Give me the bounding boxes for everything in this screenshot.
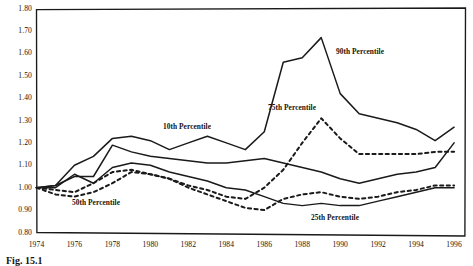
annotation-25th-percentile: 25th Percentile	[311, 213, 359, 222]
y-tick-1-80: 1.80	[2, 4, 32, 13]
x-tick-1994: 1994	[396, 240, 436, 249]
x-tick-1976: 1976	[54, 240, 94, 249]
annotation-10th-percentile: 10th Percentile	[163, 122, 211, 131]
figure-caption: Fig. 15.1	[6, 255, 42, 266]
x-tick-1992: 1992	[358, 240, 398, 249]
y-tick-1-40: 1.40	[2, 93, 32, 102]
x-tick-1986: 1986	[244, 240, 284, 249]
series-line-90th-percentile	[37, 38, 455, 188]
x-tick-1990: 1990	[320, 240, 360, 249]
line-chart-plot	[0, 0, 473, 266]
series-line-75th-percentile	[37, 118, 455, 199]
x-tick-1988: 1988	[282, 240, 322, 249]
x-tick-1982: 1982	[168, 240, 208, 249]
y-tick-1-70: 1.70	[2, 26, 32, 35]
y-tick-0-90: 0.90	[2, 205, 32, 214]
y-tick-1-10: 1.10	[2, 160, 32, 169]
x-tick-1974: 1974	[17, 240, 57, 249]
data-series-group	[37, 38, 455, 210]
y-tick-1-00: 1.00	[2, 183, 32, 192]
annotation-90th-percentile: 90th Percentile	[336, 47, 384, 56]
annotation-50th-percentile: 50th Percentile	[72, 198, 120, 207]
y-tick-1-20: 1.20	[2, 138, 32, 147]
figure-container: 1.801.701.601.501.401.301.201.101.000.90…	[0, 0, 473, 266]
annotation-75th-percentile: 75th Percentile	[268, 103, 316, 112]
y-tick-1-30: 1.30	[2, 116, 32, 125]
x-tick-1980: 1980	[130, 240, 170, 249]
x-tick-1984: 1984	[206, 240, 246, 249]
x-tick-1978: 1978	[92, 240, 132, 249]
y-tick-0-80: 0.80	[2, 228, 32, 237]
y-tick-1-60: 1.60	[2, 48, 32, 57]
y-tick-1-50: 1.50	[2, 71, 32, 80]
x-tick-1996: 1996	[434, 240, 473, 249]
